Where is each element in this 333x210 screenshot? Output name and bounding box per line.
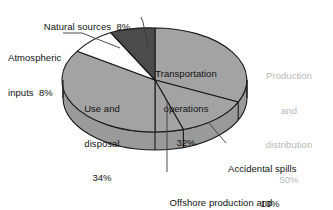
transportation-line2: operations (148, 103, 224, 115)
chart-canvas: Natural sources 8% Atmospheric inputs 8%… (0, 0, 333, 210)
slice-label-offshore-production: Offshore production and coastal refining… (156, 174, 286, 210)
transportation-line1: Transportation (148, 68, 224, 80)
slice-label-atmospheric-inputs: Atmospheric inputs 8% (8, 29, 61, 121)
accidental-spills-line1: Accidental spills (228, 163, 328, 175)
atmospheric-inputs-line2: inputs 8% (8, 87, 61, 99)
use-disposal-line2: disposal (66, 138, 138, 150)
slice-label-use-and-disposal: Use and disposal 34% (66, 80, 138, 207)
use-disposal-value: 34% (66, 172, 138, 184)
production-line2: and (258, 105, 320, 117)
atmospheric-inputs-line1: Atmospheric (8, 52, 61, 64)
production-line1: Production (258, 70, 320, 82)
transportation-value: 32% (148, 137, 224, 149)
slice-label-transportation-operations: Transportation operations 32% (148, 45, 224, 172)
offshore-line1: Offshore production and (156, 197, 286, 209)
use-disposal-line1: Use and (66, 103, 138, 115)
